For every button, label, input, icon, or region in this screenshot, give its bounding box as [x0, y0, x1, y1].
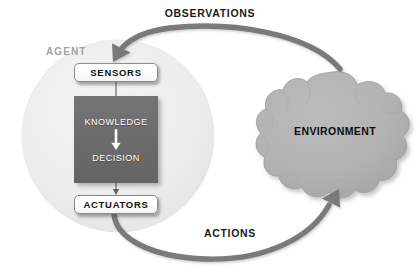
- knowledge-label: KNOWLEDGE: [84, 117, 147, 127]
- actuators-label: ACTUATORS: [83, 199, 148, 210]
- down-arrow-icon: [110, 129, 122, 151]
- observations-flow-label: OBSERVATIONS: [0, 7, 420, 19]
- sensors-label: SENSORS: [90, 67, 141, 78]
- diagram-canvas: AGENT SENSORS KNOWLEDGE DECISION ACTUATO…: [0, 0, 420, 273]
- actions-flow-label: ACTIONS: [175, 227, 285, 239]
- decision-label: DECISION: [92, 153, 140, 163]
- sensors-box[interactable]: SENSORS: [74, 63, 158, 82]
- agent-label: AGENT: [46, 46, 87, 57]
- environment-label: ENVIRONMENT: [268, 125, 402, 137]
- processor-box[interactable]: KNOWLEDGE DECISION: [74, 96, 158, 183]
- actuators-box[interactable]: ACTUATORS: [74, 195, 158, 214]
